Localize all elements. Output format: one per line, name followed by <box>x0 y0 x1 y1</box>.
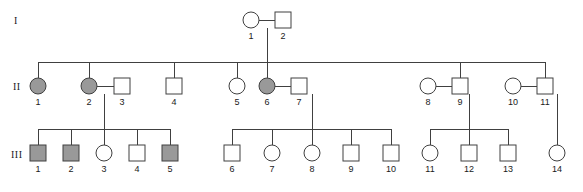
individual-III-8-circle-female-unaffected <box>304 145 320 161</box>
individual-III-3-circle-female-unaffected <box>96 145 112 161</box>
individual-II-11-square-male-unaffected <box>537 78 553 94</box>
id-label-II-1: 1 <box>35 97 40 107</box>
id-label-II-8: 8 <box>425 97 430 107</box>
generation-label-III: III <box>11 149 23 160</box>
individual-II-7-square-male-unaffected <box>291 78 307 94</box>
id-label-III-13: 13 <box>503 164 513 174</box>
id-label-II-7: 7 <box>296 97 301 107</box>
individual-II-10-circle-female-unaffected <box>505 78 521 94</box>
pedigree-chart-figure: IIIIII 121234567891011123456789101112131… <box>0 0 583 192</box>
individual-I-1-circle-female-unaffected <box>243 12 259 28</box>
id-label-II-11: 11 <box>540 97 549 107</box>
individual-III-7-circle-female-unaffected <box>264 145 280 161</box>
id-label-II-6: 6 <box>264 97 269 107</box>
id-label-II-3: 3 <box>119 97 124 107</box>
individual-II-8-circle-female-unaffected <box>420 78 436 94</box>
id-label-III-9: 9 <box>348 164 353 174</box>
id-label-III-7: 7 <box>269 164 274 174</box>
id-label-III-10: 10 <box>386 164 396 174</box>
id-label-I-1: 1 <box>248 31 253 41</box>
individual-III-9-square-male-unaffected <box>343 145 359 161</box>
id-label-III-2: 2 <box>68 164 73 174</box>
individual-III-14-circle-female-unaffected <box>549 145 565 161</box>
individual-III-11-circle-female-unaffected <box>422 145 438 161</box>
id-label-III-8: 8 <box>309 164 314 174</box>
individual-III-5-square-male-affected <box>162 145 178 161</box>
id-label-III-1: 1 <box>35 164 40 174</box>
id-label-III-4: 4 <box>134 164 139 174</box>
id-label-II-9: 9 <box>457 97 462 107</box>
generation-label-II: II <box>13 81 21 92</box>
individual-III-1-square-male-affected <box>30 145 46 161</box>
individual-III-2-square-male-affected <box>63 145 79 161</box>
id-label-I-2: 2 <box>280 31 285 41</box>
generation-label-I: I <box>14 15 18 26</box>
pedigree-diagram <box>0 0 583 192</box>
individual-III-6-square-male-unaffected <box>224 145 240 161</box>
individual-II-9-square-male-unaffected <box>452 78 468 94</box>
individual-II-5-circle-female-unaffected <box>229 78 245 94</box>
id-label-III-5: 5 <box>167 164 172 174</box>
id-label-II-4: 4 <box>171 97 176 107</box>
individual-I-2-square-male-unaffected <box>275 12 291 28</box>
id-label-II-2: 2 <box>86 97 91 107</box>
individual-II-4-square-male-unaffected <box>166 78 182 94</box>
individual-III-12-square-male-unaffected <box>461 145 477 161</box>
id-label-III-14: 14 <box>552 164 562 174</box>
individual-II-2-circle-female-affected <box>81 78 97 94</box>
individual-III-4-square-male-unaffected <box>129 145 145 161</box>
individual-II-3-square-male-unaffected <box>114 78 130 94</box>
id-label-III-3: 3 <box>101 164 106 174</box>
individual-II-6-circle-female-affected <box>259 78 275 94</box>
id-label-III-11: 11 <box>425 164 434 174</box>
id-label-III-6: 6 <box>229 164 234 174</box>
id-label-III-12: 12 <box>464 164 474 174</box>
individual-III-10-square-male-unaffected <box>383 145 399 161</box>
individual-II-1-circle-female-affected <box>30 78 46 94</box>
id-label-II-5: 5 <box>234 97 239 107</box>
individual-III-13-square-male-unaffected <box>500 145 516 161</box>
id-label-II-10: 10 <box>508 97 518 107</box>
